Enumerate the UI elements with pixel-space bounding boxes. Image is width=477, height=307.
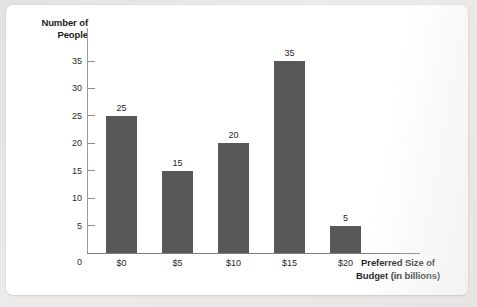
y-axis-tick-label: 35 <box>42 55 82 67</box>
y-axis-tick-mark <box>88 88 95 89</box>
bar-chart: Number of People 3530252015105 0 25$015$… <box>6 5 468 295</box>
bar-value-label: 25 <box>102 103 142 113</box>
bar <box>274 61 305 253</box>
y-axis-tick-mark <box>88 170 95 171</box>
y-axis-tick: 30 <box>46 82 96 94</box>
y-axis-zero-label: 0 <box>46 257 82 267</box>
y-axis-tick-label: 10 <box>42 192 82 204</box>
bar <box>106 116 137 253</box>
y-axis-tick-label: 5 <box>42 220 82 232</box>
y-axis-tick-mark <box>88 115 95 116</box>
x-axis-title: Preferred Size of Budget (in billions) <box>336 257 460 282</box>
y-axis-tick-label: 20 <box>42 137 82 149</box>
y-axis-tick-mark <box>88 143 95 144</box>
bar-value-label: 5 <box>326 213 366 223</box>
y-axis-tick: 25 <box>46 110 96 122</box>
y-axis-tick-label: 30 <box>42 82 82 94</box>
bar-value-label: 20 <box>214 130 254 140</box>
y-axis-tick-mark <box>88 225 95 226</box>
y-axis-tick-label: 25 <box>42 110 82 122</box>
x-axis-category-label: $5 <box>153 258 203 268</box>
bar <box>218 143 249 253</box>
figure-card: Number of People 3530252015105 0 25$015$… <box>6 5 468 295</box>
x-axis-category-label: $15 <box>265 258 315 268</box>
y-axis-tick-label: 15 <box>42 165 82 177</box>
y-axis-tick: 35 <box>46 55 96 67</box>
bar-value-label: 35 <box>270 48 310 58</box>
y-axis-tick-mark <box>88 198 95 199</box>
bar <box>162 171 193 253</box>
page-background: Number of People 3530252015105 0 25$015$… <box>0 0 477 307</box>
x-axis-line <box>87 253 420 254</box>
bar <box>330 226 361 253</box>
y-axis-tick: 10 <box>46 192 96 204</box>
y-axis-tick: 15 <box>46 165 96 177</box>
x-axis-category-label: $0 <box>97 258 147 268</box>
y-axis-tick-mark <box>88 61 95 62</box>
y-axis-tick: 5 <box>46 220 96 232</box>
bar-value-label: 15 <box>158 158 198 168</box>
y-axis-title: Number of People <box>0 17 88 40</box>
x-axis-category-label: $10 <box>209 258 259 268</box>
y-axis-tick: 20 <box>46 137 96 149</box>
